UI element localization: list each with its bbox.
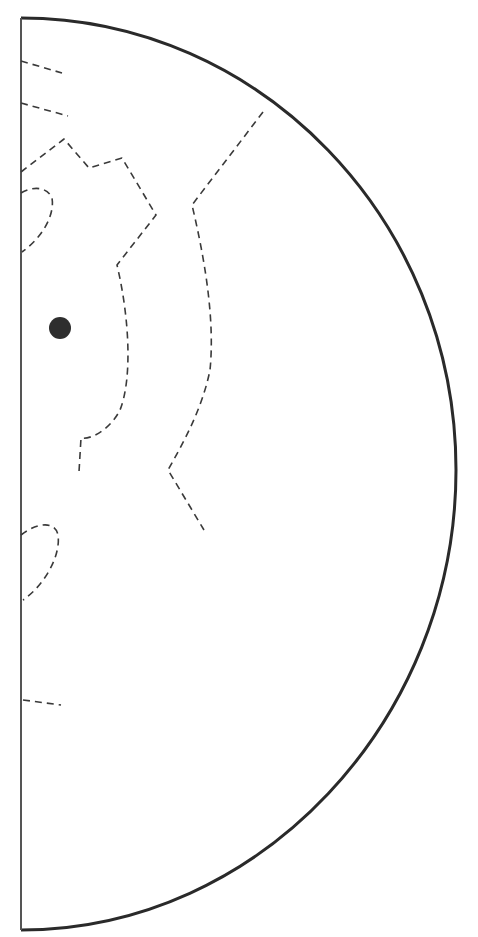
half-disc-diagram — [0, 0, 478, 937]
contour-tick-3 — [23, 700, 61, 705]
contour-inner — [21, 139, 156, 472]
contour-tick-2 — [21, 103, 68, 116]
contour-tick-1 — [21, 61, 62, 73]
contour-outer — [168, 112, 263, 530]
marker-dot — [49, 317, 71, 339]
half-disc-arc-outline — [21, 18, 456, 930]
contour-loop-bottom — [21, 525, 58, 600]
contour-loop-top — [21, 188, 52, 252]
